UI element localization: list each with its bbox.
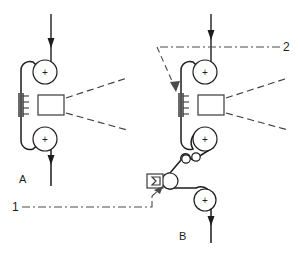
reference-callout-2: [157, 47, 280, 92]
station-b-exit-roller: +: [194, 189, 216, 211]
station-a-upper-roller: +: [33, 60, 57, 84]
station-b-upper-roller-mark: +: [202, 67, 208, 78]
station-b-upper-roller: +: [193, 60, 217, 84]
station-b-exit-roller-mark: +: [202, 195, 208, 206]
reference-callout-1: [22, 186, 163, 207]
station-a-upper-roller-mark: +: [42, 67, 48, 78]
station-b-spray-cone: [226, 78, 288, 130]
station-b-idler-roller-left: [182, 155, 190, 163]
station-b-group: + + +: [147, 14, 288, 243]
station-b-idler-roller-right: [192, 153, 200, 161]
station-b-lower-roller: +: [193, 127, 217, 151]
station-a-entry-arrow: [48, 14, 55, 62]
station-a-spray-cone: [66, 78, 127, 130]
reference-2-arrowhead: [170, 81, 180, 92]
station-a-exit-arrowhead: [48, 155, 55, 165]
station-b-lower-roller-mark: +: [202, 134, 208, 145]
station-a-label: A: [19, 174, 26, 185]
station-b-label: B: [179, 231, 186, 242]
station-a-lower-roller-mark: +: [42, 134, 48, 145]
station-a-group: + +: [19, 14, 127, 186]
reference-2-label: 2: [283, 41, 290, 53]
station-b-applicator-box: [198, 95, 224, 115]
station-b-doctor-blade-box: [147, 174, 163, 188]
reference-1-label: 1: [12, 201, 19, 213]
web-path-diagram: + +: [0, 0, 300, 257]
diagram-canvas: + +: [0, 0, 300, 257]
station-a-lower-roller: +: [33, 127, 57, 151]
station-b-exit-arrowhead: [208, 216, 215, 226]
station-b-entry-arrow: [208, 14, 215, 62]
station-b-nip-roller: [162, 173, 178, 189]
station-a-applicator-box: [38, 95, 64, 115]
